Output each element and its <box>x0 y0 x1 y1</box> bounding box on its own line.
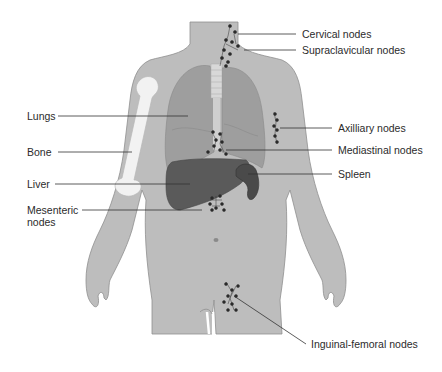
label-mesenteric-line1: Mesenteric <box>27 204 78 216</box>
label-axillary-nodes: Axilliary nodes <box>338 122 406 134</box>
label-mesenteric-line2: nodes <box>27 216 56 228</box>
label-cervical-nodes: Cervical nodes <box>302 28 371 40</box>
label-bone: Bone <box>27 146 52 158</box>
label-lungs: Lungs <box>27 110 56 122</box>
label-inguinal-femoral-nodes: Inguinal-femoral nodes <box>311 338 418 350</box>
label-supraclavicular-nodes: Supraclavicular nodes <box>302 44 405 56</box>
label-liver: Liver <box>27 178 50 190</box>
label-mediastinal-nodes: Mediastinal nodes <box>338 144 423 156</box>
label-spleen: Spleen <box>338 168 371 180</box>
